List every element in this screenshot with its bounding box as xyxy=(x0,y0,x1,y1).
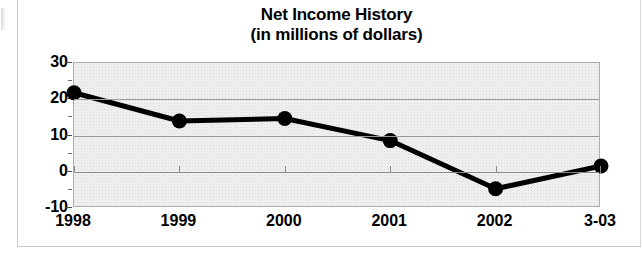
x-axis-label-1998: 1998 xyxy=(55,212,91,230)
data-point-1999 xyxy=(172,114,187,129)
gridline-20 xyxy=(74,99,599,100)
x-tick-2002 xyxy=(496,166,497,173)
data-point-1998 xyxy=(67,85,82,100)
x-tick-3-03 xyxy=(600,166,601,173)
x-axis-label-2000: 2000 xyxy=(266,212,302,230)
scan-artifact xyxy=(1,8,6,30)
chart-title-block: Net Income History (in millions of dolla… xyxy=(73,5,600,44)
x-axis-label-2002: 2002 xyxy=(477,212,513,230)
chart-page: Net Income History (in millions of dolla… xyxy=(0,0,642,258)
data-point-2002 xyxy=(488,181,503,196)
x-axis-label-2001: 2001 xyxy=(371,212,407,230)
x-axis-label-3-03: 3-03 xyxy=(584,212,616,230)
x-tick-2001 xyxy=(390,166,391,173)
net-income-line xyxy=(74,93,601,189)
x-axis-label-1999: 1999 xyxy=(161,212,197,230)
x-tick-2000 xyxy=(285,166,286,173)
gridline-0 xyxy=(74,172,599,173)
page-title: Net Income History xyxy=(73,5,600,25)
data-point-2000 xyxy=(277,111,292,126)
x-tick-1999 xyxy=(179,166,180,173)
chart-subtitle: (in millions of dollars) xyxy=(73,25,600,45)
x-tick-1998 xyxy=(74,166,75,173)
plot-area xyxy=(73,62,600,207)
gridline-10 xyxy=(74,136,599,137)
